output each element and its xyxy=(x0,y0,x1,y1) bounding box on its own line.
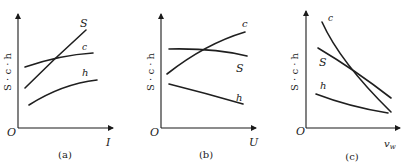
caption-a: (a) xyxy=(58,149,72,160)
x-axis-label: I xyxy=(105,136,111,149)
x-axis-label: U xyxy=(249,136,259,149)
curve-h xyxy=(29,80,97,105)
diagram-figure: O I S · c · h S c h (a) O U S · c · h c … xyxy=(0,0,402,164)
curve-label-c: c xyxy=(82,42,87,52)
y-axis-label: S · c · h xyxy=(2,52,13,91)
curve-label-c: c xyxy=(242,18,248,29)
panel-b: O U S · c · h c S h (b) xyxy=(145,14,259,160)
curve-label-S: S xyxy=(236,62,244,75)
curve-h xyxy=(169,84,243,104)
origin-label: O xyxy=(150,126,159,139)
origin-label: O xyxy=(7,126,16,139)
curve-label-h: h xyxy=(82,67,88,78)
origin-label: O xyxy=(296,125,305,138)
curve-h xyxy=(316,94,388,113)
curve-c xyxy=(322,22,391,112)
curve-S xyxy=(169,49,247,56)
curve-label-h: h xyxy=(236,92,242,103)
curve-label-S: S xyxy=(80,17,88,30)
panel-a: O I S · c · h S c h (a) xyxy=(2,14,113,160)
curve-label-S: S xyxy=(319,56,327,69)
y-axis-label: S · c · h xyxy=(145,52,156,91)
x-axis-label: vw xyxy=(384,138,396,151)
panel-c: O vw S · c · h c S h (c) xyxy=(289,11,400,162)
y-axis-label: S · c · h xyxy=(289,52,300,91)
caption-c: (c) xyxy=(345,151,359,162)
caption-b: (b) xyxy=(199,149,213,160)
curve-label-h: h xyxy=(320,80,326,91)
curve-label-c: c xyxy=(328,13,333,23)
